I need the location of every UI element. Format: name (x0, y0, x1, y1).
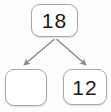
arrow-to-right-part (57, 40, 86, 65)
number-bond-diagram: 18 12 (0, 0, 111, 112)
arrow-to-left-part (25, 40, 55, 65)
whole-number-label: 18 (42, 10, 67, 31)
part-right-label: 12 (72, 77, 97, 98)
whole-number-box[interactable]: 18 (31, 4, 78, 37)
part-right-box[interactable]: 12 (63, 69, 107, 105)
part-left-box[interactable] (5, 69, 47, 106)
